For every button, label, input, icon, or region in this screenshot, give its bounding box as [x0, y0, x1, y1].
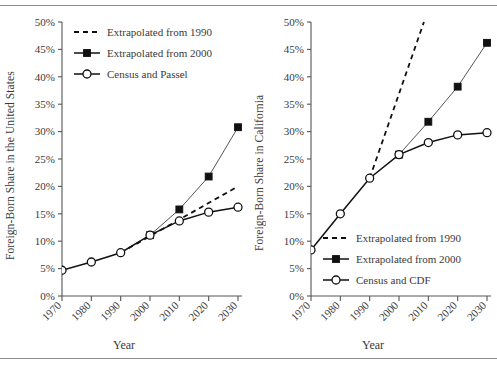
- x-tick-label-1970: 1970: [288, 299, 312, 323]
- y-tick-label-15: 15%: [284, 208, 304, 220]
- legend-label-1: Extrapolated from 2000: [107, 47, 213, 59]
- x-tick-label-1980: 1980: [318, 299, 342, 323]
- legend-item-0: Extrapolated from 1990: [323, 232, 462, 244]
- y-tick-label-35: 35%: [35, 98, 55, 110]
- x-tick-label-2000: 2000: [127, 299, 151, 323]
- legend-item-1: Extrapolated from 2000: [323, 253, 462, 265]
- x-tick-label-2020: 2020: [186, 299, 210, 323]
- x-axis-label-ca: Year: [249, 338, 497, 353]
- legend-label-2: Census and Passel: [107, 68, 188, 80]
- y-tick-label-15: 15%: [35, 208, 55, 220]
- chart-panel-california: Foreign-Born Share in California 0%5%10%…: [249, 8, 497, 356]
- chart-svg-us: 0%5%10%15%20%25%30%35%40%45%50%197019801…: [0, 8, 248, 356]
- x-tick-label-2010: 2010: [157, 299, 181, 323]
- data-point-census-1970: [58, 266, 66, 274]
- x-tick-label-2020: 2020: [435, 299, 459, 323]
- y-tick-label-30: 30%: [284, 125, 304, 137]
- data-point-census-2030: [483, 129, 491, 137]
- x-tick-label-2000: 2000: [376, 299, 400, 323]
- data-point-census-1990: [117, 249, 125, 257]
- y-tick-label-40: 40%: [35, 71, 55, 83]
- x-tick-label-1980: 1980: [69, 299, 93, 323]
- bottom-divider-rule: [0, 358, 497, 359]
- legend: Extrapolated from 1990Extrapolated from …: [74, 26, 213, 80]
- data-point-census-2010: [175, 217, 183, 225]
- data-point-census-1980: [336, 210, 344, 218]
- data-point-census-2010: [424, 139, 432, 147]
- legend-item-2: Census and CDF: [323, 274, 431, 286]
- data-series-group: [58, 124, 242, 274]
- data-point-census-2030: [234, 203, 242, 211]
- x-tick-label-1970: 1970: [39, 299, 63, 323]
- y-tick-label-5: 5%: [40, 262, 55, 274]
- y-tick-label-25: 25%: [35, 153, 55, 165]
- y-tick-label-20: 20%: [284, 180, 304, 192]
- y-tick-label-25: 25%: [284, 153, 304, 165]
- y-tick-label-50: 50%: [284, 16, 304, 28]
- legend-swatch-circle-icon: [83, 70, 91, 78]
- y-tick-label-20: 20%: [35, 180, 55, 192]
- data-point-extrapolated-2000-2020: [205, 173, 212, 180]
- y-tick-label-30: 30%: [35, 125, 55, 137]
- data-point-census-1990: [366, 174, 374, 182]
- legend-item-0: Extrapolated from 1990: [74, 26, 213, 38]
- x-tick-label-1990: 1990: [347, 299, 371, 323]
- data-point-census-2020: [454, 131, 462, 139]
- data-point-census-1980: [87, 258, 95, 266]
- legend-label-0: Extrapolated from 1990: [107, 26, 213, 38]
- data-point-census-2020: [205, 208, 213, 216]
- legend-label-1: Extrapolated from 2000: [356, 253, 462, 265]
- y-tick-label-35: 35%: [284, 98, 304, 110]
- data-point-extrapolated-2000-2030: [235, 124, 242, 131]
- y-tick-label-45: 45%: [35, 43, 55, 55]
- x-tick-label-2010: 2010: [406, 299, 430, 323]
- x-tick-label-1990: 1990: [98, 299, 122, 323]
- data-point-extrapolated-2000-2030: [484, 39, 491, 46]
- x-tick-label-2030: 2030: [464, 299, 488, 323]
- legend-label-2: Census and CDF: [356, 274, 431, 286]
- series-line-extrapolated-2000: [150, 127, 238, 235]
- data-point-extrapolated-2000-2010: [425, 118, 432, 125]
- y-tick-label-50: 50%: [35, 16, 55, 28]
- legend-swatch-square-icon: [333, 256, 340, 263]
- y-tick-label-45: 45%: [284, 43, 304, 55]
- x-axis-label-us: Year: [0, 338, 248, 353]
- data-point-extrapolated-2000-2010: [176, 206, 183, 213]
- series-line-extrapolated-2000: [399, 43, 487, 155]
- data-point-census-2000: [395, 151, 403, 159]
- legend-swatch-square-icon: [84, 50, 91, 57]
- data-point-census-1970: [307, 246, 315, 254]
- chart-panel-united-states: Foreign-Born Share in the United States …: [0, 8, 248, 356]
- data-series-group: [307, 22, 491, 254]
- y-tick-label-10: 10%: [284, 235, 304, 247]
- data-point-census-2000: [146, 231, 154, 239]
- x-tick-label-2030: 2030: [215, 299, 239, 323]
- legend-swatch-circle-icon: [332, 276, 340, 284]
- figure-area: Foreign-Born Share in the United States …: [0, 8, 497, 356]
- legend-item-1: Extrapolated from 2000: [74, 47, 213, 59]
- top-divider-rule: [0, 5, 497, 6]
- y-tick-label-10: 10%: [35, 235, 55, 247]
- axes-group: 0%5%10%15%20%25%30%35%40%45%50%197019801…: [35, 16, 242, 323]
- y-tick-label-40: 40%: [284, 71, 304, 83]
- legend: Extrapolated from 1990Extrapolated from …: [323, 232, 462, 286]
- chart-svg-ca: 0%5%10%15%20%25%30%35%40%45%50%197019801…: [249, 8, 497, 356]
- legend-item-2: Census and Passel: [74, 68, 188, 80]
- legend-label-0: Extrapolated from 1990: [356, 232, 462, 244]
- y-tick-label-5: 5%: [289, 262, 304, 274]
- data-point-extrapolated-2000-2020: [454, 83, 461, 90]
